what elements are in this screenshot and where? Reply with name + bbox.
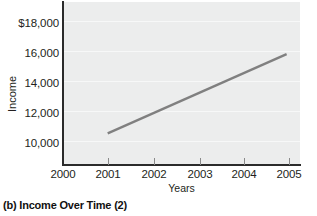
y-tick-label: 16,000 xyxy=(0,47,59,59)
income-over-time-chart: $18,000 16,000 14,000 12,000 10,000 2000… xyxy=(0,0,317,216)
y-axis-line xyxy=(62,1,64,166)
gridline xyxy=(63,81,300,82)
x-tick-mark xyxy=(244,158,245,165)
x-tick-label: 2001 xyxy=(83,168,133,180)
x-axis-title: Years xyxy=(63,182,300,194)
x-tick-label: 2005 xyxy=(264,168,314,180)
x-tick-label: 2004 xyxy=(219,168,269,180)
x-tick-mark xyxy=(200,158,201,165)
figure-caption: (b) Income Over Time (2) xyxy=(3,199,127,211)
gridline xyxy=(63,51,300,52)
x-tick-label: 2000 xyxy=(38,168,88,180)
x-tick-mark xyxy=(289,158,290,165)
x-tick-mark xyxy=(108,158,109,165)
x-tick-mark xyxy=(154,158,155,165)
gridline xyxy=(63,141,300,142)
y-axis-title: Income xyxy=(6,64,18,124)
x-tick-label: 2002 xyxy=(129,168,179,180)
gridline xyxy=(63,21,300,22)
x-tick-label: 2003 xyxy=(175,168,225,180)
x-axis-line xyxy=(62,164,301,166)
gridline xyxy=(63,111,300,112)
y-tick-label: $18,000 xyxy=(0,17,59,29)
plot-area xyxy=(63,2,300,165)
y-tick-label: 10,000 xyxy=(0,137,59,149)
